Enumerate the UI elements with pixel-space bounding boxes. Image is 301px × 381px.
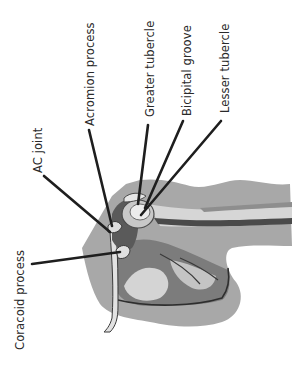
leader-acromion-process bbox=[89, 130, 112, 226]
shoulder-diagram: Coracoid process AC joint Acromion proce… bbox=[0, 0, 301, 381]
label-coracoid-process: Coracoid process bbox=[13, 250, 27, 350]
leader-ac-joint bbox=[44, 176, 110, 232]
label-lesser-tubercle: Lesser tubercle bbox=[218, 24, 232, 113]
label-greater-tubercle: Greater tubercle bbox=[143, 21, 157, 117]
label-acromion-process: Acromion process bbox=[83, 22, 97, 126]
label-bicipital-groove: Bicipital groove bbox=[180, 25, 194, 116]
label-ac-joint: AC joint bbox=[31, 127, 45, 173]
